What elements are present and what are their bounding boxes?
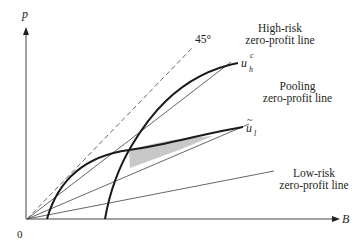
label-pooling: Pooling zero-profit line <box>240 80 355 104</box>
line-pooling-zero-profit <box>27 124 249 219</box>
label-high-risk-line2: zero-profit line <box>220 34 340 46</box>
label-high-risk: High-risk zero-profit line <box>220 22 340 46</box>
label-low-risk-line2: zero-profit line <box>264 179 361 191</box>
label-low-risk: Low-risk zero-profit line <box>264 167 361 191</box>
label-low-risk-line1: Low-risk <box>264 167 361 179</box>
line-low-risk-zero-profit <box>27 171 274 219</box>
label-u-l-tilde-base: u <box>246 121 252 136</box>
label-u-l-tilde: ~ u l <box>246 121 266 141</box>
label-u-h-c-base: u <box>241 56 247 71</box>
y-axis-label: p <box>22 7 28 22</box>
shaded-region <box>129 136 213 168</box>
y-axis-arrow-icon <box>23 27 29 35</box>
label-45-degree: 45° <box>195 33 211 45</box>
label-pooling-line2: zero-profit line <box>240 92 355 104</box>
x-axis-arrow-icon <box>332 216 340 222</box>
label-u-h-c: u h c <box>241 56 261 76</box>
label-high-risk-line1: High-risk <box>220 22 340 34</box>
x-axis-label: B <box>342 212 349 227</box>
origin-label: 0 <box>17 228 23 240</box>
label-u-h-c-superscript: c <box>250 51 254 60</box>
label-pooling-line1: Pooling <box>240 80 355 92</box>
label-u-l-tilde-subscript: l <box>254 129 256 138</box>
label-u-h-c-subscript: h <box>249 65 253 74</box>
curve-u-l-tilde <box>47 127 243 219</box>
